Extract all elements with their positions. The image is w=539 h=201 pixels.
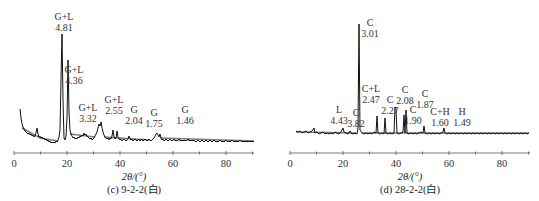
- x-axis-label-c: 2θ/(°): [122, 171, 147, 183]
- caption-d: (d) 28-2-2(白): [380, 183, 440, 196]
- peak-label-d: 1.90: [404, 115, 422, 126]
- tick-label: 80: [221, 158, 232, 169]
- tick-label: 80: [497, 158, 508, 169]
- peak-label-phase: C: [367, 17, 374, 28]
- peak-label-d: 1.46: [176, 115, 194, 126]
- panel-c: 0 20 40 60 80 2θ/(°) (c) 9-2-2(白) G+L 4.…: [11, 11, 254, 196]
- tick-label: 20: [62, 158, 73, 169]
- peak-label-phase: G: [150, 107, 157, 118]
- caption-c: (c) 9-2-2(白): [107, 183, 162, 196]
- tick-label: 40: [115, 158, 126, 169]
- tick-label: 0: [11, 158, 16, 169]
- peak-label-d: 2.04: [125, 115, 143, 126]
- tick-label: 60: [444, 158, 455, 169]
- peak-label-phase: C: [387, 94, 394, 105]
- peak-label-phase: C+L: [362, 83, 380, 94]
- peak-label-phase: G: [181, 104, 188, 115]
- tick-label: 20: [338, 158, 349, 169]
- peak-label-d: 4.43: [330, 115, 348, 126]
- peak-label-d: 4.81: [55, 22, 73, 33]
- peak-label-phase: G+L: [55, 11, 74, 22]
- peak-label-d: 2.55: [105, 105, 123, 116]
- peak-label-phase: H: [458, 106, 465, 117]
- panel-d: 0 20 40 60 80 2θ/(°) (d) 28-2-2(白) C 3.0…: [287, 17, 530, 196]
- peak-label-d: 3.82: [347, 118, 365, 129]
- peak-label-phase: C: [402, 84, 409, 95]
- tick-label: 40: [391, 158, 402, 169]
- peak-label-phase: G+L: [105, 94, 124, 105]
- peak-label-phase: C: [422, 88, 429, 99]
- peak-label-phase: L: [336, 104, 342, 115]
- peak-label-phase: C: [353, 107, 360, 118]
- peak-label-d: 1.49: [453, 117, 471, 128]
- peak-label-d: 2.47: [362, 94, 380, 105]
- peak-label-d: 1.60: [431, 117, 449, 128]
- peak-label-phase: G+L: [79, 102, 98, 113]
- peak-label-d: 2.27: [381, 105, 399, 116]
- x-axis-label-d: 2θ/(°): [398, 171, 423, 183]
- peak-label-d: 1.75: [145, 118, 163, 129]
- peak-label-phase: C: [410, 104, 417, 115]
- peak-label-phase: G: [130, 104, 137, 115]
- tick-label: 0: [287, 158, 292, 169]
- peak-label-d: 4.36: [65, 75, 83, 86]
- peak-label-phase: G+L: [65, 64, 84, 75]
- tick-label: 60: [168, 158, 179, 169]
- peak-label-phase: C+H: [430, 106, 450, 117]
- xrd-figure: 0 20 40 60 80 2θ/(°) (c) 9-2-2(白) G+L 4.…: [0, 0, 539, 201]
- xrd-trace-c: [20, 34, 254, 143]
- peak-label-d: 3.32: [79, 113, 97, 124]
- peak-label-d: 3.01: [361, 28, 379, 39]
